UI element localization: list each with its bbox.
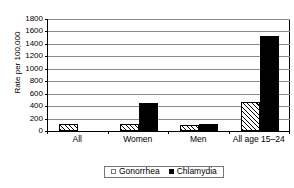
- y-axis-tick-label: 800: [0, 77, 43, 85]
- y-axis-tick-label: 200: [0, 115, 43, 123]
- gridline: [48, 44, 290, 45]
- chart-legend: Gonorrhea Chlamydia: [104, 166, 224, 178]
- legend-label-chlamydia: Chlamydia: [177, 167, 217, 176]
- y-axis-tick-mark: [45, 94, 48, 95]
- y-axis-tick-mark: [45, 81, 48, 82]
- y-axis-tick-label: 0: [0, 127, 43, 135]
- bar-women-chlamydia: [139, 103, 158, 131]
- y-axis-tick-mark: [45, 119, 48, 120]
- gridline: [48, 94, 290, 95]
- x-axis-tick-label: All age 15–24: [229, 134, 290, 144]
- x-axis-tick-mark: [289, 132, 290, 134]
- y-axis-tick-mark: [45, 106, 48, 107]
- y-axis-tick-mark: [45, 44, 48, 45]
- gridline: [48, 56, 290, 57]
- y-axis-tick-mark: [45, 19, 48, 20]
- legend-label-gonorrhea: Gonorrhea: [119, 167, 160, 176]
- bar-men-gonorrhea: [180, 125, 199, 131]
- y-axis-tick-label: 1600: [0, 27, 43, 35]
- y-axis-tick-label: 1200: [0, 52, 43, 60]
- plot-inner: [48, 19, 290, 131]
- x-axis-tick-label: Women: [108, 134, 169, 144]
- gridline: [48, 81, 290, 82]
- plot-right-border: [289, 19, 290, 131]
- legend-item-chlamydia: Chlamydia: [169, 167, 217, 176]
- gridline: [48, 31, 290, 32]
- bar-women-gonorrhea: [120, 124, 139, 131]
- y-axis-tick-label: 400: [0, 102, 43, 110]
- y-axis-tick-mark: [45, 69, 48, 70]
- y-axis-tick-mark: [45, 56, 48, 57]
- bar-men-chlamydia: [199, 124, 218, 131]
- plot-area: [47, 19, 290, 132]
- y-axis-tick-label: 1000: [0, 65, 43, 73]
- bar-all-age-15-24-chlamydia: [260, 36, 279, 131]
- y-axis-tick-label: 1400: [0, 40, 43, 48]
- x-axis-tick-label: Men: [168, 134, 229, 144]
- bar-all-age-15-24-gonorrhea: [241, 102, 260, 131]
- bar-chart: Rate per 100,000 18001600140012001000800…: [0, 0, 294, 188]
- gridline: [48, 19, 290, 20]
- y-axis-tick-mark: [45, 31, 48, 32]
- bar-all-gonorrhea: [59, 124, 78, 131]
- y-axis-tick-label: 600: [0, 90, 43, 98]
- x-axis-tick-label: All: [47, 134, 108, 144]
- gridline: [48, 69, 290, 70]
- legend-item-gonorrhea: Gonorrhea: [111, 167, 160, 176]
- legend-swatch-chlamydia-icon: [169, 169, 174, 174]
- legend-swatch-gonorrhea-icon: [111, 169, 116, 174]
- y-axis-tick-label: 1800: [0, 15, 43, 23]
